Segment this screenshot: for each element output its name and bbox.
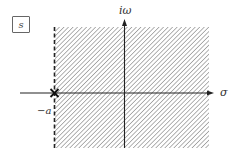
sigma-axis-arrow-icon [207, 91, 214, 96]
omega-axis-arrow-icon [122, 19, 127, 26]
pole-label: −a [37, 106, 51, 116]
sigma-axis-label: σ [220, 87, 228, 98]
region-of-convergence [55, 27, 209, 148]
omega-axis-label: iω [119, 5, 132, 16]
s-plane-diagram [0, 0, 235, 161]
